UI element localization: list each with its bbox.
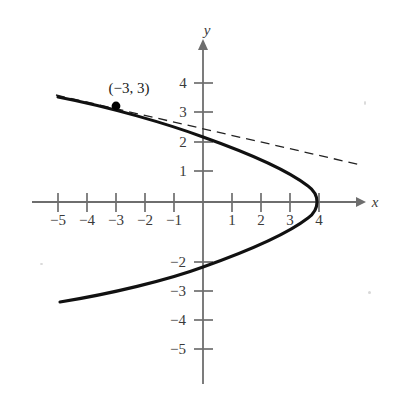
plot-canvas	[0, 0, 396, 404]
y-axis-arrowhead	[198, 39, 208, 50]
graph-figure: −5 −4 −3 −2 −1 1 2 3 4 4 3 2 1 −2 −3 −4 …	[0, 0, 396, 404]
x-axis-arrowhead	[356, 197, 366, 207]
y-tick-label-neg2: −2	[170, 255, 186, 270]
y-tick-label-2: 2	[179, 135, 187, 150]
x-tick-label-3: 3	[286, 213, 294, 228]
x-tick-label-neg2: −2	[137, 213, 153, 228]
x-tick-label-neg1: −1	[166, 213, 182, 228]
y-tick-label-neg3: −3	[170, 284, 186, 299]
tangent-point-marker	[112, 102, 121, 111]
tangent-point-label: (−3, 3)	[109, 81, 150, 96]
x-tick-label-4: 4	[315, 213, 323, 228]
y-tick-label-neg5: −5	[170, 342, 186, 357]
x-axis-label: x	[372, 195, 379, 210]
parabola-curve	[58, 97, 317, 302]
y-tick-label-4: 4	[179, 76, 187, 91]
y-axis-label: y	[204, 23, 211, 38]
x-tick-label-neg5: −5	[50, 213, 66, 228]
y-tick-label-neg4: −4	[170, 313, 186, 328]
x-tick-label-neg3: −3	[108, 213, 124, 228]
y-tick-label-1: 1	[179, 164, 187, 179]
x-tick-label-neg4: −4	[79, 213, 95, 228]
x-tick-label-2: 2	[257, 213, 265, 228]
x-tick-label-1: 1	[228, 213, 236, 228]
y-tick-label-3: 3	[179, 105, 187, 120]
